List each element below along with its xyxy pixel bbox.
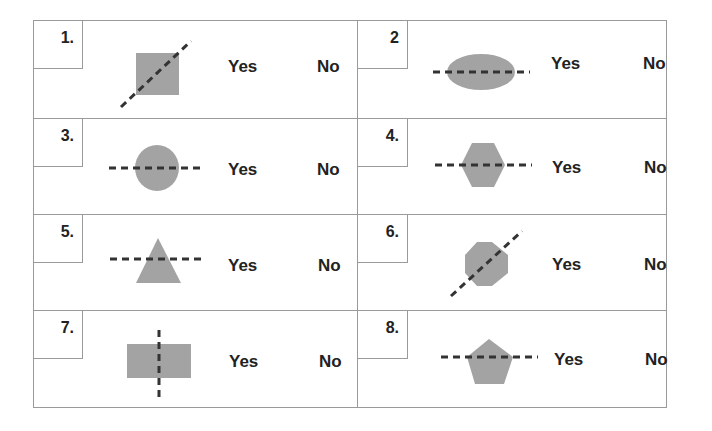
item-4-yes-option[interactable]: Yes [552,158,581,178]
row-divider [33,214,667,215]
item-1-no-option[interactable]: No [317,57,340,77]
item-8-no-option[interactable]: No [645,350,668,370]
item-4-number: 4. [358,118,408,167]
item-2-no-option[interactable]: No [643,54,666,74]
item-8-number: 8. [358,310,408,359]
row-divider [33,310,667,311]
item-3-yes-option[interactable]: Yes [228,160,257,180]
item-6-no-option[interactable]: No [644,255,667,275]
item-8-yes-option[interactable]: Yes [554,350,583,370]
item-7-number: 7. [33,310,83,359]
item-3-no-option[interactable]: No [317,160,340,180]
item-6-yes-option[interactable]: Yes [552,255,581,275]
item-4-no-option[interactable]: No [644,158,667,178]
item-2-yes-option[interactable]: Yes [551,54,580,74]
item-5-number: 5. [33,214,83,263]
row-divider [33,118,667,119]
item-7-yes-option[interactable]: Yes [229,352,258,372]
item-1-yes-option[interactable]: Yes [228,57,257,77]
pentagon-shape-icon [0,0,1,1]
item-7-no-option[interactable]: No [319,352,342,372]
item-5-yes-option[interactable]: Yes [228,256,257,276]
item-2-number: 2 [358,20,408,69]
item-6-number: 6. [358,214,408,263]
item-5-no-option[interactable]: No [318,256,341,276]
item-3-number: 3. [33,118,83,167]
item-1-number: 1. [33,20,83,69]
